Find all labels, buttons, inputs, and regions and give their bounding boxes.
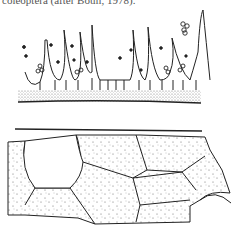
setae-row: [18, 10, 210, 103]
figure-illustration: [0, 0, 241, 237]
cell-pattern: [8, 129, 231, 224]
